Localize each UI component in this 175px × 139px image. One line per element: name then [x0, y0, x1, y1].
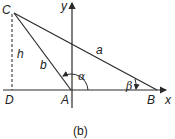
point-label-d: D: [5, 93, 14, 107]
side-label-a: a: [96, 43, 103, 57]
point-label-c: C: [2, 3, 11, 17]
point-label-a: A: [60, 93, 69, 107]
angle-label-beta: β: [125, 80, 132, 93]
figure-caption: (b): [73, 124, 88, 138]
side-label-b: b: [40, 58, 47, 72]
angle-label-alpha: α: [78, 70, 86, 83]
point-label-b: B: [147, 93, 155, 107]
side-a: [14, 13, 157, 90]
axis-label-x: x: [164, 93, 172, 107]
beta-arc: [135, 79, 136, 89]
side-label-h: h: [17, 47, 24, 61]
triangle-diagram: C D A B a b h α β x y (b): [0, 0, 175, 139]
axis-label-y: y: [60, 0, 68, 13]
